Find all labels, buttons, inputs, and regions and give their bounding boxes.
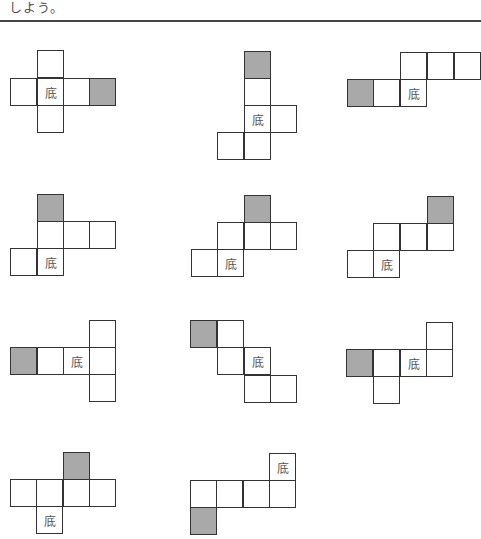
base-face: 底 — [244, 105, 271, 133]
shaded-face — [89, 78, 116, 106]
shaded-face — [347, 79, 374, 107]
net-face — [37, 347, 64, 375]
shaded-face — [63, 452, 90, 480]
net-face — [217, 347, 244, 375]
net-face — [244, 78, 271, 106]
net-face — [244, 222, 271, 250]
net-face — [400, 223, 427, 251]
net-face — [243, 480, 270, 508]
shaded-face — [37, 194, 64, 222]
net-face — [347, 250, 374, 278]
net-face — [63, 479, 90, 507]
net-face — [217, 132, 244, 160]
base-face: 底 — [37, 248, 64, 276]
net-face — [36, 479, 63, 507]
net-face — [10, 78, 37, 106]
net-face — [427, 223, 454, 251]
base-face: 底 — [36, 506, 63, 534]
net-face — [63, 221, 90, 249]
net-face — [190, 480, 217, 508]
base-face: 底 — [373, 250, 400, 278]
net-face — [427, 52, 454, 80]
shaded-face — [190, 507, 217, 535]
shaded-face — [346, 349, 373, 377]
instruction-text-tail: しよう。 — [9, 0, 64, 16]
base-face: 底 — [37, 78, 64, 106]
net-face — [89, 374, 116, 402]
shaded-face — [10, 347, 37, 375]
net-face — [454, 52, 481, 80]
net-face — [244, 132, 271, 160]
net-face — [63, 78, 90, 106]
net-face — [270, 105, 297, 133]
net-face — [426, 322, 453, 350]
net-face — [89, 221, 116, 249]
net-face — [216, 480, 243, 508]
net-face — [10, 479, 37, 507]
base-face: 底 — [63, 347, 90, 375]
net-face — [37, 221, 64, 249]
net-face — [373, 223, 400, 251]
net-face — [191, 249, 218, 277]
net-face — [37, 50, 64, 78]
net-face — [373, 349, 400, 377]
net-face — [270, 375, 297, 403]
net-face — [10, 248, 37, 276]
net-face — [89, 479, 116, 507]
net-face — [89, 320, 116, 348]
base-face: 底 — [400, 79, 427, 107]
net-face — [217, 222, 244, 250]
base-face: 底 — [244, 347, 271, 375]
net-face — [244, 375, 271, 403]
shaded-face — [190, 320, 217, 348]
net-face — [269, 480, 296, 508]
net-face — [37, 105, 64, 133]
header-divider — [0, 20, 481, 22]
base-face: 底 — [269, 453, 296, 481]
shaded-face — [427, 196, 454, 224]
shaded-face — [244, 195, 271, 223]
base-face: 底 — [217, 249, 244, 277]
net-face — [89, 347, 116, 375]
net-face — [426, 349, 453, 377]
net-face — [373, 79, 400, 107]
net-face — [373, 376, 400, 404]
net-face — [270, 222, 297, 250]
shaded-face — [244, 51, 271, 79]
base-face: 底 — [400, 349, 427, 377]
net-face — [400, 52, 427, 80]
net-face — [217, 320, 244, 348]
